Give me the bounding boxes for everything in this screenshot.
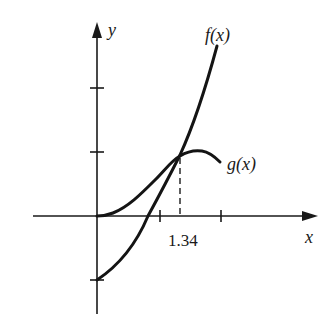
curve-f-label: f(x) — [205, 25, 230, 46]
x-axis-arrow-icon — [302, 211, 318, 221]
curve-g — [97, 151, 220, 216]
curve-f — [97, 46, 217, 280]
intersection-x-value: 1.34 — [168, 231, 198, 250]
y-axis-arrow-icon — [92, 22, 102, 38]
y-axis-label: y — [106, 20, 116, 40]
function-graph: y x f(x) g(x) 1.34 — [0, 0, 335, 327]
x-axis-label: x — [304, 227, 313, 247]
curve-g-label: g(x) — [227, 154, 256, 175]
